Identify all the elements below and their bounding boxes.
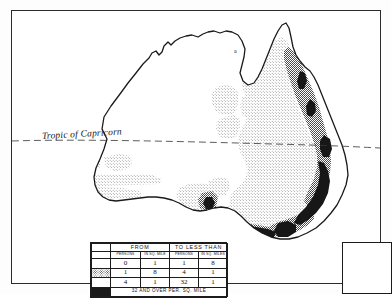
legend-row: 0 1 1 8 <box>92 259 228 269</box>
legend-subheader-sqmile-from: IN SQ. MILE <box>141 252 170 259</box>
legend-from-sqmile-2: 1 <box>141 278 170 288</box>
legend-footer-text: 32 AND OVER PER. SQ. MILE <box>111 287 228 297</box>
swatch-fill-1 <box>92 269 110 278</box>
legend-to-sqmile-1: 1 <box>199 268 228 278</box>
legend-footer-row: 32 AND OVER PER. SQ. MILE <box>92 287 228 297</box>
legend-to-persons-1: 4 <box>170 268 199 278</box>
legend-from-sqmile-1: 8 <box>141 268 170 278</box>
legend-to-sqmile-2: 1 <box>199 278 228 288</box>
legend-from-persons-0: 0 <box>111 259 141 269</box>
legend-from-sqmile-0: 1 <box>141 259 170 269</box>
tasmania-inset-box <box>342 242 392 294</box>
swatch-fill-3 <box>92 288 110 297</box>
swatch-fill-0 <box>92 259 110 268</box>
legend-subheader-persons-from: PERSONS <box>111 252 141 259</box>
legend-subheader-persons-to: PERSONS <box>170 252 199 259</box>
legend-row: 1 8 4 1 <box>92 268 228 278</box>
legend-subheader-sqmile-to: IN SQ. MILES <box>199 252 228 259</box>
legend-grid: FROM TO LESS THAN PERSONS IN SQ. MILE PE… <box>91 243 228 297</box>
legend-swatch-subheader <box>92 252 111 259</box>
legend-header-to: TO LESS THAN <box>170 244 228 252</box>
legend-swatch-header <box>92 244 111 252</box>
legend-swatch-0 <box>92 259 111 269</box>
legend-header-row: FROM TO LESS THAN <box>92 244 228 252</box>
legend-from-persons-1: 1 <box>111 268 141 278</box>
gulf-letter-label: a <box>234 48 237 54</box>
legend-subheader-row: PERSONS IN SQ. MILE PERSONS IN SQ. MILES <box>92 252 228 259</box>
legend-swatch-2 <box>92 278 111 288</box>
legend-from-persons-2: 4 <box>111 278 141 288</box>
plate-frame: Tropic of Capricorn a FROM TO LESS THAN <box>11 10 381 284</box>
legend-table: FROM TO LESS THAN PERSONS IN SQ. MILE PE… <box>90 242 227 298</box>
legend-to-persons-0: 1 <box>170 259 199 269</box>
legend-row: 4 1 32 1 <box>92 278 228 288</box>
legend-to-sqmile-0: 8 <box>199 259 228 269</box>
legend-header-from: FROM <box>111 244 170 252</box>
swatch-fill-2 <box>92 278 110 287</box>
legend-swatch-1 <box>92 268 111 278</box>
legend-to-persons-2: 32 <box>170 278 199 288</box>
legend-swatch-3 <box>92 287 111 297</box>
